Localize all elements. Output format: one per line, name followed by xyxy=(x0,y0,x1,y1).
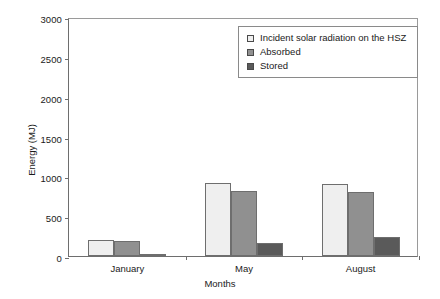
y-tick-mark xyxy=(65,258,69,259)
y-tick-mark xyxy=(65,99,69,100)
y-tick-mark xyxy=(65,178,69,179)
bar-chart: Energy (MJ) 050010001500200025003000 Jan… xyxy=(0,0,440,299)
x-tick-label: August xyxy=(346,263,376,274)
y-tick-mark xyxy=(65,139,69,140)
x-tick-mark xyxy=(302,256,303,260)
x-tick-label: January xyxy=(110,263,144,274)
bar xyxy=(322,184,348,256)
y-tick-mark xyxy=(65,59,69,60)
legend-label: Stored xyxy=(260,60,288,72)
legend-swatch-stored xyxy=(247,63,254,70)
bar xyxy=(348,192,374,256)
legend-label: Incident solar radiation on the HSZ xyxy=(260,32,406,44)
bar xyxy=(140,254,166,256)
y-tick-mark xyxy=(65,218,69,219)
bar xyxy=(231,191,257,256)
bar xyxy=(257,243,283,256)
legend-item: Absorbed xyxy=(247,46,411,58)
x-tick-mark xyxy=(186,256,187,260)
legend-item: Stored xyxy=(247,60,411,72)
bar xyxy=(114,241,140,256)
y-axis-title: Energy (MJ) xyxy=(26,124,37,176)
legend: Incident solar radiation on the HSZ Abso… xyxy=(238,26,418,78)
x-tick-label: May xyxy=(235,263,253,274)
legend-label: Absorbed xyxy=(260,46,301,58)
bar xyxy=(374,237,400,256)
x-tick-mark xyxy=(419,256,420,260)
legend-swatch-incident-solar-radiation xyxy=(247,35,254,42)
bar xyxy=(88,240,114,256)
x-axis-title: Months xyxy=(0,278,440,289)
legend-item: Incident solar radiation on the HSZ xyxy=(247,32,411,44)
bar xyxy=(205,183,231,256)
legend-swatch-absorbed xyxy=(247,49,254,56)
y-tick-mark xyxy=(65,19,69,20)
